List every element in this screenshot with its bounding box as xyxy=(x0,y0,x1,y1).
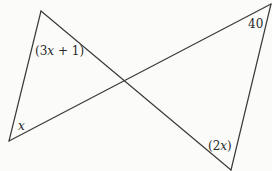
angle-label-bottom-left-text: x xyxy=(18,119,25,133)
diagonal-down-line xyxy=(41,11,231,170)
left-side-line xyxy=(9,11,41,141)
angle-label-top-right-text: 40 xyxy=(248,17,263,31)
angle-label-top-right: 40 xyxy=(248,18,263,30)
angle-label-bottom-right: (2x) xyxy=(208,140,232,152)
angle-label-bottom-right-text: (2x) xyxy=(208,139,232,153)
diagonal-up-line xyxy=(9,4,271,141)
angle-label-bottom-left: x xyxy=(18,120,25,132)
angle-label-top-left: (3x + 1) xyxy=(35,45,84,57)
angle-label-top-left-text: (3x + 1) xyxy=(35,44,84,58)
